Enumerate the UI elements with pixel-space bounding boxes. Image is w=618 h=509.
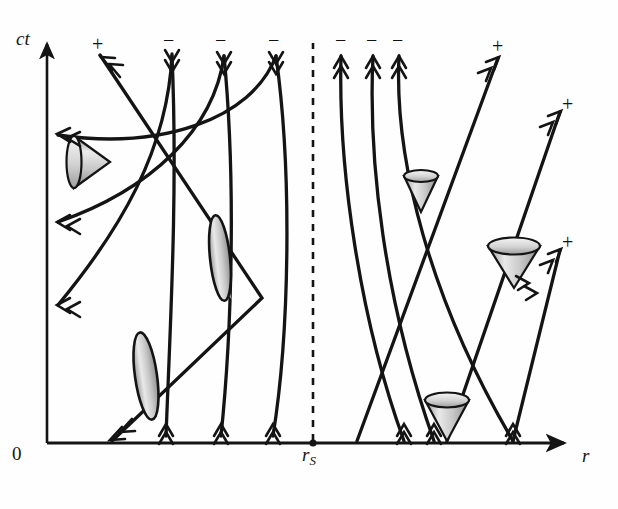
light-cone-inside-upper — [67, 136, 111, 188]
axis-group — [47, 44, 564, 443]
minus-top-5: − — [366, 30, 377, 50]
horizon-label: rS — [302, 444, 316, 469]
origin-label: 0 — [12, 443, 22, 465]
plus-right-upper: + — [562, 94, 573, 114]
worldline-plus-inside — [100, 55, 262, 441]
light-cone-inside-lower — [129, 331, 163, 421]
spacetime-diagram: ct 0 r rS +−−−−−−+++ — [0, 0, 618, 509]
worldline-plus-outside-1 — [357, 58, 498, 441]
horizon-label-sub: S — [309, 453, 316, 468]
worldline-inside-vert-1 — [166, 56, 174, 436]
x-axis-label: r — [582, 445, 589, 467]
minus-top-6: − — [392, 30, 403, 50]
diagram-canvas — [0, 0, 618, 509]
plus-top-left: + — [92, 34, 103, 54]
worldline-minus-outside-2 — [372, 56, 434, 441]
y-axis-label: ct — [16, 28, 30, 50]
plus-right-lower: + — [562, 232, 573, 252]
plus-top-right: + — [492, 36, 503, 56]
minus-top-1: − — [163, 30, 174, 50]
worldline-inside-vert-3 — [273, 56, 287, 436]
worldlines-inside — [58, 54, 287, 441]
minus-top-3: − — [268, 30, 279, 50]
minus-top-2: − — [215, 30, 226, 50]
event-horizon-line — [309, 43, 316, 447]
arrowheads — [57, 50, 561, 444]
light-cone-outside-upper — [404, 170, 438, 212]
worldline-plus-outside-2 — [447, 112, 560, 441]
light-cone-outside-right — [488, 238, 540, 289]
minus-top-4: − — [335, 30, 346, 50]
